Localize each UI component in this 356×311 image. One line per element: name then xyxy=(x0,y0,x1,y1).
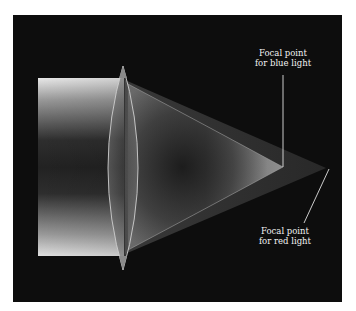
red-label-line2: for red light xyxy=(250,236,320,246)
red-focal-leader-line xyxy=(304,169,329,223)
blue-focal-point-label: Focal point for blue light xyxy=(248,48,318,68)
red-focal-point-label: Focal point for red light xyxy=(250,226,320,246)
red-label-line1: Focal point xyxy=(250,226,320,236)
chromatic-aberration-diagram xyxy=(0,0,356,311)
blue-label-line2: for blue light xyxy=(248,58,318,68)
blue-label-line1: Focal point xyxy=(248,48,318,58)
